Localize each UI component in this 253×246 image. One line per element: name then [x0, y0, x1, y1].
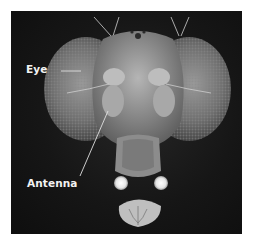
fly-head-micrograph — [11, 11, 242, 234]
label-eye: Eye — [26, 63, 47, 75]
label-antenna: Antenna — [27, 177, 77, 189]
micrograph-frame: Eye Antenna — [11, 11, 242, 234]
